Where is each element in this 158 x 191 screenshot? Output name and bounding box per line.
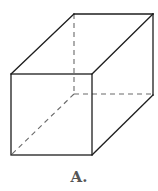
hidden-edge-diagonal (11, 94, 74, 155)
front-face (11, 74, 92, 155)
edge-bottom-right-diagonal (92, 95, 153, 155)
edge-top-left-diagonal (11, 14, 74, 74)
edge-top-right-diagonal (92, 14, 153, 74)
figure-caption: A. (0, 168, 158, 186)
prism-diagram (0, 0, 158, 191)
